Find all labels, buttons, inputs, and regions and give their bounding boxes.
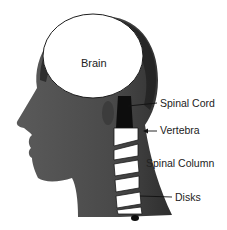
vertebra-label: Vertebra	[160, 125, 200, 136]
brain-label: Brain	[81, 58, 107, 69]
disks-label: Disks	[175, 192, 201, 203]
ear	[102, 101, 114, 125]
spine-base	[131, 215, 139, 221]
spinal-cord-label: Spinal Cord	[160, 98, 215, 109]
spinal-cord	[116, 96, 133, 128]
brain-region	[43, 14, 143, 98]
spinal-column-label: Spinal Column	[146, 158, 214, 169]
